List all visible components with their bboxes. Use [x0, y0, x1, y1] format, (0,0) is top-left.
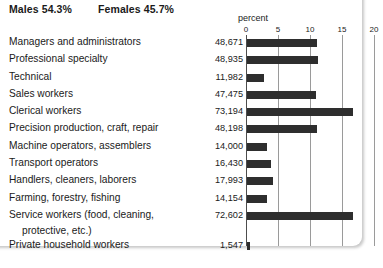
chart-row: Professional specialty48,935 — [0, 52, 383, 69]
occupation-label: Clerical workers — [9, 105, 81, 116]
chart-row: Precision production, craft, repair48,19… — [0, 121, 383, 138]
worker-count-value: 48,198 — [143, 123, 243, 133]
chart-row: Farming, forestry, fishing14,154 — [0, 191, 383, 208]
percent-bar — [247, 39, 317, 47]
occupation-label: Handlers, cleaners, laborers — [9, 174, 136, 185]
percent-bar — [247, 74, 264, 82]
percent-bar — [247, 212, 353, 220]
percent-bar — [247, 143, 267, 151]
chart-rows: Managers and administrators48,671Profess… — [0, 35, 383, 255]
occupation-label: Precision production, craft, repair — [9, 122, 159, 133]
occupation-label-line2: protective, etc.) — [22, 225, 92, 236]
chart-row: Technical11,982 — [0, 70, 383, 87]
occupation-label: Private household workers — [9, 239, 129, 250]
percent-bar — [247, 177, 273, 185]
chart-row: Managers and administrators48,671 — [0, 35, 383, 52]
worker-count-value: 14,154 — [143, 193, 243, 203]
x-tick-label: 0 — [244, 25, 248, 34]
percent-bar — [247, 242, 250, 250]
chart-row: Transport operators16,430 — [0, 156, 383, 173]
worker-count-value: 47,475 — [143, 89, 243, 99]
chart-row: Handlers, cleaners, laborers17,993 — [0, 173, 383, 190]
occupation-label: Machine operators, assemblers — [9, 140, 151, 151]
percent-bar — [247, 91, 316, 99]
occupation-bar-chart-figure: Males 54.3% Females 45.7% percent 051015… — [0, 0, 383, 268]
x-axis-title: percent — [238, 13, 268, 23]
percent-bar — [247, 125, 317, 133]
chart-content: Males 54.3% Females 45.7% percent 051015… — [0, 0, 383, 268]
worker-count-value: 14,000 — [143, 141, 243, 151]
occupation-label: Transport operators — [9, 157, 98, 168]
x-tick-label: 20 — [370, 25, 379, 34]
occupation-label: Service workers (food, cleaning, — [9, 209, 154, 220]
occupation-label: Farming, forestry, fishing — [9, 192, 120, 203]
worker-count-value: 73,194 — [143, 106, 243, 116]
x-tick-label: 10 — [306, 25, 315, 34]
worker-count-value: 1,547 — [143, 240, 243, 250]
x-tick-label: 5 — [276, 25, 280, 34]
percent-bar — [247, 108, 353, 116]
females-percentage-label: Females 45.7% — [98, 3, 174, 15]
chart-row: Private household workers1,547 — [0, 238, 383, 255]
worker-count-value: 48,671 — [143, 37, 243, 47]
males-percentage-label: Males 54.3% — [9, 3, 72, 15]
chart-row: Clerical workers73,194 — [0, 104, 383, 121]
percent-bar — [247, 195, 267, 203]
percent-bar — [247, 56, 318, 64]
occupation-label: Sales workers — [9, 88, 73, 99]
worker-count-value: 16,430 — [143, 158, 243, 168]
x-tick-label: 15 — [338, 25, 347, 34]
worker-count-value: 48,935 — [143, 54, 243, 64]
occupation-label: Managers and administrators — [9, 36, 141, 47]
occupation-label: Technical — [9, 71, 51, 82]
worker-count-value: 17,993 — [143, 175, 243, 185]
occupation-label: Professional specialty — [9, 53, 108, 64]
chart-row: Sales workers47,475 — [0, 87, 383, 104]
chart-row: Machine operators, assemblers14,000 — [0, 139, 383, 156]
chart-row: Service workers (food, cleaning,protecti… — [0, 208, 383, 238]
worker-count-value: 72,602 — [143, 210, 243, 220]
worker-count-value: 11,982 — [143, 72, 243, 82]
percent-bar — [247, 160, 271, 168]
